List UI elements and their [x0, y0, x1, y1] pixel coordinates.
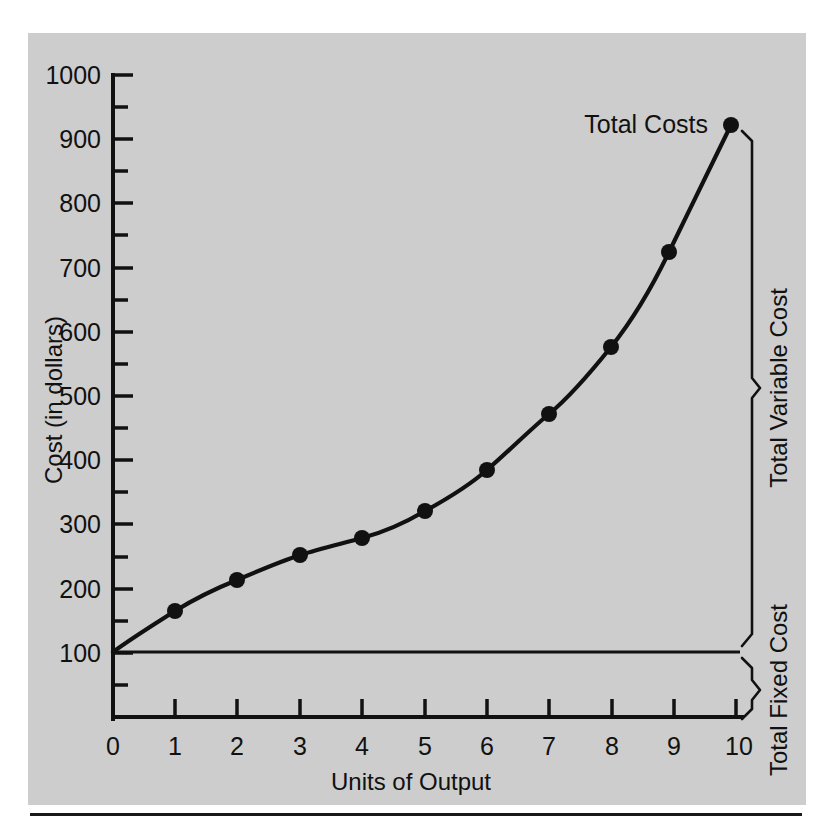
data-point-2 [229, 572, 245, 588]
x-tick-label-5: 5 [418, 732, 432, 760]
total-fixed-cost-brace [742, 658, 760, 719]
x-axis-ticks [175, 699, 736, 717]
x-tick-label-9: 9 [667, 732, 681, 760]
x-tick-label-4: 4 [355, 732, 369, 760]
chart-svg: 1000 900 800 700 600 500 400 300 200 100… [0, 0, 822, 830]
data-point-6 [479, 462, 495, 478]
x-tick-label-7: 7 [542, 732, 556, 760]
y-tick-label-1000: 1000 [45, 61, 101, 89]
x-tick-label-1: 1 [168, 732, 182, 760]
total-costs-curve [113, 125, 731, 652]
x-tick-label-2: 2 [230, 732, 244, 760]
x-axis-title: Units of Output [331, 768, 491, 795]
y-tick-label-900: 900 [59, 125, 101, 153]
y-tick-label-200: 200 [59, 575, 101, 603]
data-point-8 [603, 339, 619, 355]
y-tick-label-800: 800 [59, 189, 101, 217]
data-point-10 [723, 117, 739, 133]
y-tick-label-300: 300 [59, 510, 101, 538]
y-axis-title: Cost (in dollars) [40, 316, 67, 484]
figure-container: 1000 900 800 700 600 500 400 300 200 100… [0, 0, 822, 830]
x-tick-label-8: 8 [605, 732, 619, 760]
data-point-7 [541, 406, 557, 422]
y-tick-label-100: 100 [59, 639, 101, 667]
x-tick-label-3: 3 [293, 732, 307, 760]
total-costs-markers [167, 117, 739, 619]
total-fixed-cost-label: Total Fixed Cost [765, 604, 792, 776]
data-point-9 [661, 244, 677, 260]
y-tick-label-700: 700 [59, 254, 101, 282]
x-tick-label-0: 0 [106, 732, 120, 760]
data-point-3 [292, 547, 308, 563]
x-tick-label-6: 6 [480, 732, 494, 760]
total-variable-cost-brace [742, 131, 760, 646]
x-tick-label-10: 10 [725, 732, 753, 760]
total-variable-cost-label: Total Variable Cost [765, 288, 792, 488]
data-point-5 [417, 503, 433, 519]
total-costs-annotation-label: Total Costs [584, 110, 708, 138]
data-point-4 [354, 530, 370, 546]
data-point-1 [167, 603, 183, 619]
